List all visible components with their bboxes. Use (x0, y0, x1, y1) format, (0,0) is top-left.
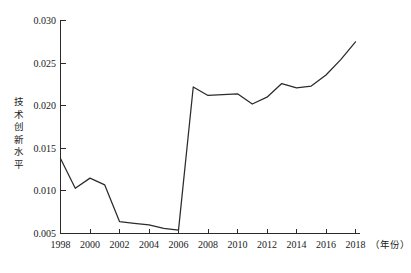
x-tick-marks (61, 229, 356, 234)
x-tick-label-2016: 2016 (316, 239, 336, 250)
y-tick-label-0.030: 0.030 (34, 15, 57, 26)
x-tick-label-2008: 2008 (198, 239, 218, 250)
x-tick-label-2014: 2014 (287, 239, 307, 250)
y-axis: 0.030 0.025 0.020 0.015 0.010 0.005 (34, 15, 66, 239)
data-line-technology-innovation (61, 42, 356, 230)
x-tick-label-1998: 1998 (51, 239, 71, 250)
x-tick-label-2006: 2006 (169, 239, 189, 250)
y-tick-marks (61, 21, 66, 234)
data-series-group (61, 42, 356, 230)
x-tick-label-2018: 2018 (346, 239, 366, 250)
y-tick-label-0.010: 0.010 (34, 185, 57, 196)
x-tick-labels: 1998 2000 2002 2004 2006 2008 2010 2012 … (51, 239, 366, 250)
line-chart-plot: 0.030 0.025 0.020 0.015 0.010 0.005 (0, 0, 411, 273)
y-tick-label-0.015: 0.015 (34, 143, 57, 154)
chart-container: 技 术 创 新 水 平 0.030 0.025 0.020 0.015 0.01… (0, 0, 411, 273)
x-axis: 1998 2000 2002 2004 2006 2008 2010 2012 … (51, 229, 411, 251)
y-tick-labels: 0.030 0.025 0.020 0.015 0.010 0.005 (34, 15, 57, 239)
x-axis-title: （年份） (370, 239, 410, 250)
y-tick-label-0.005: 0.005 (34, 228, 57, 239)
x-tick-label-2010: 2010 (228, 239, 248, 250)
x-tick-label-2012: 2012 (257, 239, 277, 250)
y-tick-label-0.020: 0.020 (34, 100, 57, 111)
x-tick-label-2004: 2004 (139, 239, 159, 250)
x-tick-label-2002: 2002 (110, 239, 130, 250)
y-tick-label-0.025: 0.025 (34, 58, 57, 69)
x-tick-label-2000: 2000 (80, 239, 100, 250)
